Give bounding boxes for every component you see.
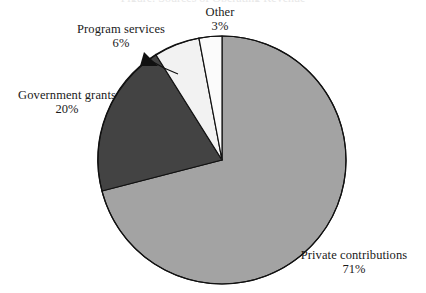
pie-label-other-percent: 3% <box>178 19 262 33</box>
pie-chart-figure: Figure: Sources of Operating Revenue Pro… <box>0 0 426 293</box>
pie-label-other: Other 3% <box>178 5 262 33</box>
pie-label-program-services: Program services 6% <box>60 22 182 50</box>
pie-label-government-grants-name: Government grants <box>2 88 132 102</box>
pie-label-other-name: Other <box>178 5 262 19</box>
pie-label-program-services-name: Program services <box>60 22 182 36</box>
pie-label-private-contributions-name: Private contributions <box>282 248 426 262</box>
pie-label-private-contributions: Private contributions 71% <box>282 248 426 276</box>
pie-label-government-grants-percent: 20% <box>2 102 132 116</box>
pie-label-program-services-percent: 6% <box>60 36 182 50</box>
pie-label-private-contributions-percent: 71% <box>282 262 426 276</box>
pie-label-government-grants: Government grants 20% <box>2 88 132 116</box>
